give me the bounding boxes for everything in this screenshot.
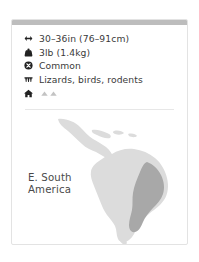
weight-icon [21, 46, 36, 59]
region-label-line-1: E. South [28, 172, 72, 184]
fact-value-length: 30–36in (76–91cm) [36, 33, 129, 44]
region-label-line-2: America [28, 184, 72, 196]
fact-row-habitat [21, 86, 187, 100]
fact-value-status: Common [36, 60, 81, 71]
fact-row-diet: Lizards, birds, rodents [21, 73, 187, 87]
hill-glyph [50, 91, 57, 96]
fact-row-status: Common [21, 59, 187, 73]
fact-row-weight: 3lb (1.4kg) [21, 46, 187, 60]
circle-x-icon [21, 59, 36, 72]
fact-list: 30–36in (76–91cm) 3lb (1.4kg) Common [12, 25, 187, 100]
house-icon [21, 87, 36, 100]
range-map: Range map — eastern South America E. Sou… [12, 110, 187, 245]
animal-fact-card: 30–36in (76–91cm) 3lb (1.4kg) Common [11, 19, 188, 245]
habitat-glyph-group [36, 91, 57, 96]
hill-glyph [41, 91, 48, 96]
fact-row-length: 30–36in (76–91cm) [21, 32, 187, 46]
teeth-icon [21, 73, 36, 86]
fact-value-diet: Lizards, birds, rodents [36, 74, 143, 85]
region-label: E. South America [28, 172, 72, 197]
fact-value-weight: 3lb (1.4kg) [36, 47, 90, 58]
double-arrow-horizontal-icon [21, 32, 36, 45]
